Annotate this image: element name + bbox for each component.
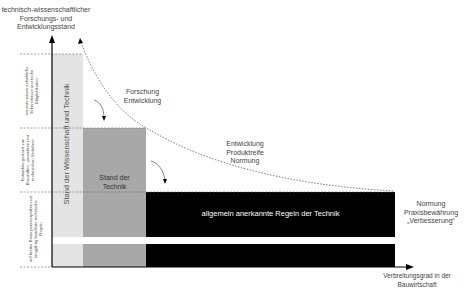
regeln-block-label: allgemein anerkannte Regeln der Technik: [146, 209, 395, 218]
annotation-line: Entwicklung: [115, 97, 170, 106]
arrow-head-2-icon: [163, 179, 167, 184]
annotation-standardization: Normung Praxisbewährung „Verbesserung“: [398, 200, 464, 226]
annotation-line: Forschung: [115, 88, 170, 97]
level-label-science: neueste wissenschaftliche Erkenntnisse u…: [24, 56, 48, 126]
annotation-line: Produktreife: [215, 149, 275, 158]
annotation-line: Normung: [215, 157, 275, 166]
transition-arrow-1: [94, 100, 104, 118]
gap-band: [52, 237, 395, 244]
technik-block-label: Stand der Technik: [83, 174, 146, 191]
annotation-line: „Verbesserung“: [398, 217, 464, 226]
x-axis-label-line: Bauwirtschaft: [370, 281, 464, 290]
curve-arrow-icon: [78, 38, 83, 44]
science-bar-label: Stand der Wissenschaft und Technik: [62, 64, 74, 224]
annotation-research: Forschung Entwicklung: [115, 88, 170, 105]
x-axis-label-line: Verbreitungsgrad in der: [370, 272, 464, 281]
annotation-line: Praxisbewährung: [398, 209, 464, 218]
y-axis-label-line: technisch-wissenschaftlicher: [0, 6, 92, 15]
y-axis-label-line: Entwicklungsstand: [0, 23, 92, 32]
technik-block: [83, 128, 146, 267]
annotation-line: Entwicklung: [215, 140, 275, 149]
x-axis-arrow-icon: [406, 264, 414, 270]
transition-arrow-2: [151, 161, 165, 181]
annotation-line: Normung: [398, 200, 464, 209]
x-axis-label: Verbreitungsgrad in der Bauwirtschaft: [370, 272, 464, 289]
regeln-block: [146, 192, 395, 267]
level-label-rules: auf breiter Basis praxiserprobte und lan…: [28, 194, 52, 264]
arrow-head-1-icon: [102, 116, 106, 121]
y-axis-label: technisch-wissenschaftlicher Forschungs-…: [0, 6, 92, 32]
annotation-development: Entwicklung Produktreife Normung: [215, 140, 275, 166]
y-axis-label-line: Forschungs- und: [0, 15, 92, 24]
technik-label-line: Technik: [83, 183, 146, 192]
level-label-development: Entwicklungsstand von Baustoffen, -produ…: [20, 129, 44, 191]
y-axis-arrow-icon: [49, 35, 55, 43]
technik-label-line: Stand der: [83, 174, 146, 183]
